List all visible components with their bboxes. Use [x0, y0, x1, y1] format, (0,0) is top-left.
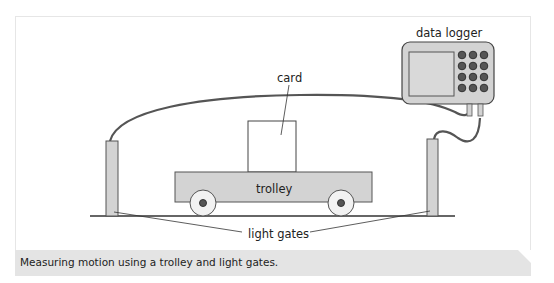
label-card: card — [277, 71, 302, 85]
label-data-logger: data logger — [416, 26, 482, 40]
cable-right — [434, 118, 480, 141]
light-gate-right — [427, 139, 438, 216]
label-light-gates: light gates — [248, 227, 309, 241]
light-gates-leader-left — [114, 212, 242, 232]
card — [248, 121, 296, 172]
figure-caption: Measuring motion using a trolley and lig… — [20, 256, 278, 268]
trolley-light-gates-diagram: data logger card trolley light gates — [0, 0, 554, 283]
data-logger — [402, 42, 494, 116]
label-trolley: trolley — [256, 182, 292, 196]
light-gate-left — [106, 141, 118, 216]
light-gates-leader-right — [310, 211, 430, 232]
